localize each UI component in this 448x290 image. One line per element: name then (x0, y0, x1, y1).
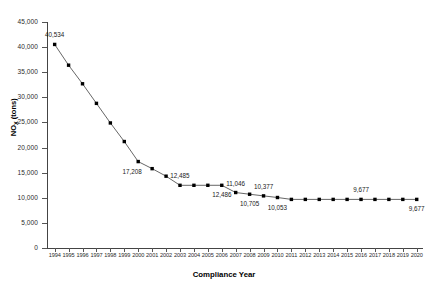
data-point-marker (331, 198, 334, 201)
data-point-marker (290, 198, 293, 201)
nox-compliance-line-chart: 05,00010,00015,00020,00025,00030,00035,0… (0, 0, 448, 290)
data-point-label: 10,377 (244, 183, 284, 190)
data-point-marker (137, 160, 140, 163)
data-point-label: 12,486 (202, 191, 242, 198)
data-point-marker (67, 63, 70, 66)
data-point-label: 40,534 (35, 31, 75, 38)
data-point-marker (262, 194, 265, 197)
data-point-marker (53, 43, 56, 46)
data-point-label: 17,208 (112, 168, 152, 175)
data-point-marker (109, 121, 112, 124)
data-point-marker (81, 82, 84, 85)
data-point-marker (345, 198, 348, 201)
data-point-label: 10,053 (257, 204, 297, 211)
data-point-marker (206, 184, 209, 187)
data-point-marker (387, 198, 390, 201)
data-point-marker (123, 140, 126, 143)
data-point-marker (192, 184, 195, 187)
data-markers-group (53, 43, 418, 201)
data-point-label: 12,485 (160, 172, 200, 179)
data-point-marker (304, 198, 307, 201)
data-point-marker (178, 184, 181, 187)
plot-area (0, 0, 448, 290)
data-point-label: 9,677 (341, 186, 381, 193)
data-point-marker (415, 198, 418, 201)
data-point-label: 9,677 (397, 205, 437, 212)
data-point-marker (373, 198, 376, 201)
data-point-marker (401, 198, 404, 201)
data-point-marker (95, 102, 98, 105)
data-point-marker (248, 193, 251, 196)
data-point-marker (276, 196, 279, 199)
data-point-marker (359, 198, 362, 201)
data-point-marker (318, 198, 321, 201)
